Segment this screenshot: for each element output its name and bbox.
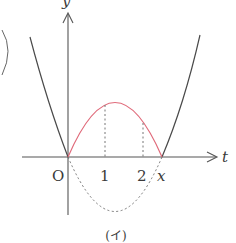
graph-figure: O 1 2 x t y (イ) bbox=[0, 0, 236, 243]
origin-label: O bbox=[52, 167, 64, 185]
bracket-fragment bbox=[2, 30, 8, 75]
dashed-original-arc bbox=[68, 157, 162, 212]
curve-right-branch bbox=[162, 35, 200, 157]
curve-left-branch bbox=[30, 37, 68, 157]
figure-caption: (イ) bbox=[105, 229, 126, 243]
tick-label-2: 2 bbox=[137, 167, 147, 185]
y-axis-label: y bbox=[61, 0, 71, 10]
x-axis-label: t bbox=[222, 148, 229, 166]
reflected-arc bbox=[68, 103, 162, 158]
tick-label-1: 1 bbox=[100, 167, 110, 185]
tick-label-x: x bbox=[157, 167, 166, 185]
